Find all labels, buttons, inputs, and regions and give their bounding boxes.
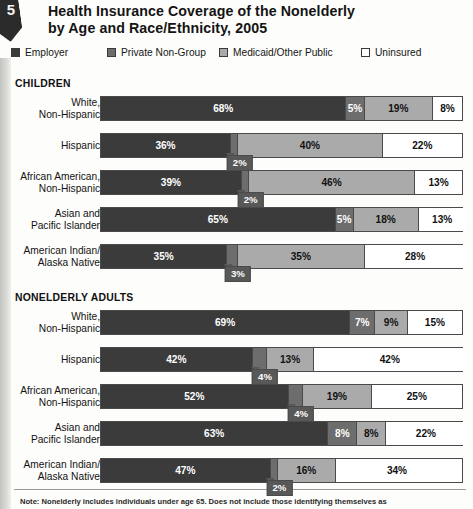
segment-value-label: 68%: [213, 103, 233, 114]
bar-segment-medicaid: 40%: [238, 134, 382, 157]
segment-value-label: 35%: [291, 251, 311, 262]
segment-value-label: 16%: [296, 465, 316, 476]
segment-value-label: 5%: [337, 214, 352, 225]
segment-value-label: 69%: [215, 317, 235, 328]
section-heading-children: CHILDREN: [15, 78, 71, 89]
bar-segment-employer: 47%: [101, 459, 271, 482]
segment-value-label: 2%: [267, 480, 293, 496]
bar-segment-uninsured: 22%: [383, 134, 462, 157]
bar-segment-medicaid: 19%: [365, 97, 434, 120]
bar-segment-employer: 35%: [101, 245, 227, 268]
row-category-line: Alaska Native: [0, 471, 100, 483]
bar-segment-private: 7%: [350, 311, 375, 334]
segment-value-label: 2%: [227, 155, 253, 171]
legend-label-uninsured: Uninsured: [375, 47, 421, 58]
segment-value-label: 34%: [387, 465, 407, 476]
segment-value-label: 19%: [388, 103, 408, 114]
row-category-line: White,: [0, 97, 100, 109]
segment-value-label: 18%: [376, 214, 396, 225]
bar-segment-medicaid: 13%: [267, 348, 314, 371]
stacked-bar: 63%8%8%22%: [100, 421, 463, 446]
section-heading-nonelderly-adults: NONELDERLY ADULTS: [15, 292, 134, 303]
stacked-bar: 65%5%18%13%: [100, 207, 463, 232]
bar-segment-medicaid: 9%: [375, 311, 407, 334]
legend-swatch-icon-medicaid: [219, 48, 228, 57]
bar-segment-employer: 63%: [101, 422, 328, 445]
bar-segment-uninsured: 28%: [365, 245, 466, 268]
row-category-label: White,Non-Hispanic: [0, 311, 100, 334]
row-category-line: Pacific Islander: [0, 220, 100, 232]
chart-row: Hispanic36%2%40%22%: [0, 133, 473, 159]
stacked-bar: 52%4%19%25%: [100, 384, 463, 409]
stacked-bar: 69%7%9%15%: [100, 310, 463, 335]
row-category-label: Asian andPacific Islander: [0, 208, 100, 231]
slide-number: 5: [1, 1, 21, 18]
bar-segment-private: 2%: [231, 134, 238, 157]
corner-number-badge: 5: [0, 0, 22, 58]
bar-segment-uninsured: 34%: [336, 459, 459, 482]
segment-value-label: 22%: [412, 140, 432, 151]
bar-segment-employer: 42%: [101, 348, 253, 371]
legend-item-uninsured[interactable]: Uninsured: [361, 44, 421, 60]
segment-value-label: 42%: [380, 354, 400, 365]
bar-segment-private: 2%: [242, 171, 249, 194]
bar-segment-private: 4%: [253, 348, 267, 371]
row-category-line: Hispanic: [0, 354, 100, 366]
segment-value-label: 42%: [166, 354, 186, 365]
row-category-line: Non-Hispanic: [0, 183, 100, 195]
chart-row: American Indian/Alaska Native35%3%35%28%: [0, 244, 473, 270]
bar-segment-uninsured: 13%: [415, 171, 462, 194]
legend-swatch-icon-private: [107, 48, 116, 57]
bar-segment-uninsured: 25%: [372, 385, 462, 408]
segment-value-label: 2%: [238, 192, 264, 208]
bar-segment-employer: 65%: [101, 208, 336, 231]
bar-segment-uninsured: 22%: [386, 422, 465, 445]
bar-segment-private: 3%: [227, 245, 238, 268]
row-category-line: African American,: [0, 171, 100, 183]
bar-segment-medicaid: 18%: [354, 208, 419, 231]
chart-row: Asian andPacific Islander63%8%8%22%: [0, 421, 473, 447]
row-category-label: Hispanic: [0, 140, 100, 152]
row-category-label: American Indian/Alaska Native: [0, 459, 100, 482]
segment-value-label: 40%: [300, 140, 320, 151]
footnote-divider: [14, 489, 466, 490]
row-category-line: Non-Hispanic: [0, 397, 100, 409]
legend-swatch-icon-uninsured: [361, 48, 370, 57]
segment-value-label: 13%: [428, 177, 448, 188]
segment-value-label: 5%: [348, 103, 363, 114]
segment-value-label: 3%: [225, 266, 251, 282]
segment-value-label: 22%: [416, 428, 436, 439]
bar-segment-uninsured: 13%: [419, 208, 466, 231]
segment-value-label: 39%: [161, 177, 181, 188]
chart-row: White,Non-Hispanic69%7%9%15%: [0, 310, 473, 336]
segment-value-label: 47%: [175, 465, 195, 476]
segment-value-label: 19%: [327, 391, 347, 402]
row-category-line: White,: [0, 311, 100, 323]
bar-segment-private: 4%: [289, 385, 303, 408]
footnote: Note: Nonelderly includes individuals un…: [20, 497, 470, 509]
stacked-bar: 47%2%16%34%: [100, 458, 463, 483]
bar-segment-medicaid: 35%: [238, 245, 364, 268]
bar-segment-medicaid: 46%: [249, 171, 415, 194]
bar-segment-uninsured: 15%: [408, 311, 462, 334]
segment-value-label: 36%: [155, 140, 175, 151]
legend-item-medicaid[interactable]: Medicaid/Other Public: [219, 44, 333, 60]
chart-row: Asian andPacific Islander65%5%18%13%: [0, 207, 473, 233]
bar-segment-medicaid: 8%: [357, 422, 386, 445]
row-category-line: Non-Hispanic: [0, 323, 100, 335]
segment-value-label: 63%: [204, 428, 224, 439]
chart-row: American Indian/Alaska Native47%2%16%34%: [0, 458, 473, 484]
legend-label-medicaid: Medicaid/Other Public: [233, 47, 333, 58]
segment-value-label: 35%: [154, 251, 174, 262]
chart-legend: EmployerPrivate Non-GroupMedicaid/Other …: [11, 44, 463, 62]
segment-value-label: 13%: [432, 214, 452, 225]
chart-row: White,Non-Hispanic68%5%19%8%: [0, 96, 473, 122]
legend-item-private[interactable]: Private Non-Group: [107, 44, 206, 60]
page-title: Health Insurance Coverage of the Nonelde…: [48, 3, 468, 37]
bar-segment-employer: 52%: [101, 385, 289, 408]
row-category-line: American Indian/: [0, 459, 100, 471]
row-category-label: American Indian/Alaska Native: [0, 245, 100, 268]
bar-segment-private: 5%: [336, 208, 354, 231]
row-category-line: American Indian/: [0, 245, 100, 257]
chart-row: African American,Non-Hispanic39%2%46%13%: [0, 170, 473, 196]
